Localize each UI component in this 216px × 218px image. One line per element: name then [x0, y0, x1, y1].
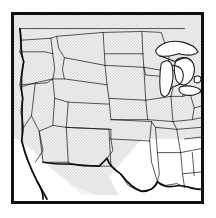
map-frame: Shaded region map of the United States O…	[11, 12, 204, 204]
map-figure: Shaded region map of the United States O…	[0, 0, 216, 218]
lake-ontario-shape	[194, 76, 201, 83]
us-map-graphic	[14, 15, 201, 201]
